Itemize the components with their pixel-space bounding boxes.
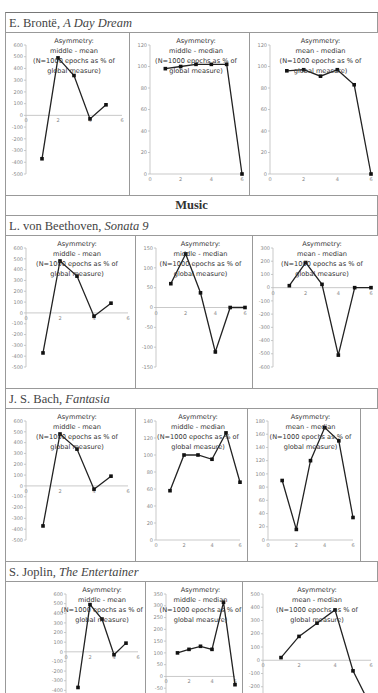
data-point [353, 286, 357, 290]
y-tick-label: 160 [255, 431, 265, 437]
x-tick-label: 2 [179, 176, 182, 182]
data-point [320, 283, 324, 287]
data-point [124, 641, 128, 645]
row-label-beethoven: L. von Beethoven, Sonata 9 [6, 216, 378, 236]
chart-title: global measure) [47, 67, 101, 75]
y-tick-label: 200 [13, 89, 23, 95]
y-tick-label: -300 [12, 342, 23, 348]
data-point [187, 648, 191, 652]
y-tick-label: 0 [144, 171, 147, 177]
y-tick-label: 140 [255, 444, 265, 450]
chart-title: Asymmetry: [82, 586, 122, 594]
data-line [287, 70, 371, 174]
row-label-joplin: S. Joplin, The Entertainer [6, 562, 378, 582]
y-tick-label: 0 [60, 649, 63, 655]
chart-title: Asymmetry: [301, 37, 341, 45]
x-tick-label: 2 [88, 654, 91, 660]
y-tick-label: 120 [143, 435, 153, 441]
y-tick-label: -200 [12, 331, 23, 337]
y-tick-label: 0 [160, 673, 163, 679]
y-tick-label: -100 [259, 298, 270, 304]
x-tick-label: 4 [214, 310, 217, 316]
x-tick-label: 2 [182, 542, 185, 548]
y-tick-label: -400 [12, 353, 23, 359]
y-tick-label: 300 [13, 450, 23, 456]
line-chart: 6005004003002001000-100-200-300-400-5000… [6, 236, 136, 389]
chart-title: Asymmetry: [57, 240, 97, 248]
chart-row-bach: 6005004003002001000-100-200-300-400-5000… [6, 409, 378, 562]
chart-cell: 150100500-50-100-1500246Asymmetry:middle… [136, 236, 253, 388]
x-tick-label: 0 [164, 678, 167, 684]
chart-title: Asymmetry: [291, 413, 331, 421]
chart-title: mean - median [292, 596, 342, 604]
y-tick-label: -500 [12, 537, 23, 543]
y-tick-label: -100 [12, 320, 23, 326]
chart-title: middle - median [171, 423, 225, 431]
y-tick-label: 200 [153, 626, 163, 632]
data-point [176, 651, 180, 655]
x-tick-label: 4 [337, 290, 340, 296]
data-point [351, 516, 355, 520]
chart-title: Asymmetry: [181, 240, 221, 248]
y-tick-label: 500 [250, 591, 260, 597]
line-chart: 1201008060402000246Asymmetry:middle - me… [130, 33, 250, 196]
y-tick-label: -100 [12, 124, 23, 130]
y-tick-label: -50 [155, 685, 163, 691]
y-tick-label: 50 [157, 661, 163, 667]
y-tick-label: 600 [53, 591, 63, 597]
y-tick-label: -300 [12, 515, 23, 521]
y-tick-label: 80 [259, 484, 265, 490]
y-tick-label: 40 [261, 128, 267, 134]
data-point [92, 314, 96, 318]
chart-title: (N=1000 epochs as % of [61, 606, 143, 614]
chart-title: Asymmetry: [176, 37, 216, 45]
y-tick-label: 60 [141, 106, 147, 112]
author-name: L. von Beethoven, [9, 219, 104, 233]
y-tick-label: 200 [13, 461, 23, 467]
y-tick-label: 80 [141, 85, 147, 91]
y-tick-label: 180 [255, 418, 265, 424]
x-tick-label: 6 [240, 176, 243, 182]
x-tick-label: 0 [154, 542, 157, 548]
work-title: Fantasia [65, 392, 109, 406]
data-point [243, 306, 247, 310]
y-tick-label: 100 [13, 472, 23, 478]
chart-row-beethoven: 6005004003002001000-100-200-300-400-5000… [6, 236, 378, 389]
data-line [170, 433, 240, 491]
line-chart: 1801601401201008060402000246Asymmetry:me… [248, 409, 361, 562]
data-point [210, 457, 214, 461]
x-tick-label: 6 [369, 290, 372, 296]
y-tick-label: 120 [255, 457, 265, 463]
y-tick-label: 100 [13, 299, 23, 305]
chart-title: middle - mean [53, 250, 101, 258]
y-tick-label: 600 [13, 245, 23, 251]
author-name: S. Joplin, [9, 565, 59, 579]
y-tick-label: 50 [147, 284, 153, 290]
line-chart: 6005004003002001000-100-200-300-400-5000… [6, 582, 146, 693]
chart-cell: 6005004003002001000-100-200-300-400-5000… [6, 33, 130, 195]
chart-title: global measure) [294, 67, 348, 75]
y-tick-label: 20 [147, 520, 153, 526]
x-tick-label: 0 [64, 654, 67, 660]
chart-title: middle - mean [53, 423, 101, 431]
y-tick-label: 60 [261, 106, 267, 112]
chart-title: (N=1000 epochs as % of [155, 57, 237, 65]
x-tick-label: 4 [336, 176, 339, 182]
chart-title: global measure) [171, 443, 225, 451]
chart-cell: 5004003002001000-100-200-3000246Asymmetr… [243, 582, 378, 693]
x-tick-label: 0 [24, 488, 27, 494]
y-tick-label: -100 [52, 658, 63, 664]
y-tick-label: 400 [13, 266, 23, 272]
y-tick-label: 100 [255, 471, 265, 477]
x-tick-label: 0 [266, 542, 269, 548]
chart-cell: 6005004003002001000-100-200-300-400-5000… [6, 236, 136, 388]
chart-title: middle - median [169, 47, 223, 55]
chart-cell: 350300250200150100500-50-1000246Asymmetr… [146, 582, 243, 693]
y-tick-label: 400 [250, 604, 260, 610]
y-tick-label: -200 [12, 136, 23, 142]
y-tick-label: 400 [13, 439, 23, 445]
x-tick-label: 2 [56, 117, 59, 123]
row-label-bach: J. S. Bach, Fantasia [6, 389, 378, 409]
data-point [285, 69, 289, 73]
y-tick-label: 40 [141, 128, 147, 134]
